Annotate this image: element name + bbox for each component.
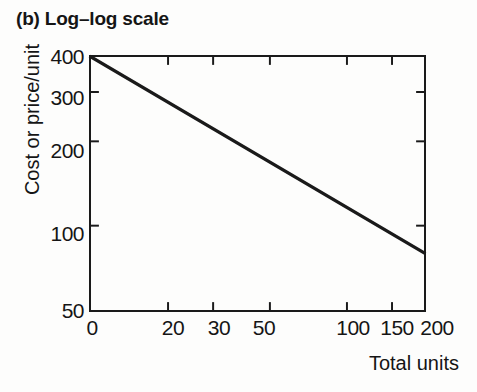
plot-canvas xyxy=(91,57,424,310)
series-line-0 xyxy=(91,57,424,253)
y-tick-label-400: 400 xyxy=(50,45,84,69)
y-tick-label-300: 300 xyxy=(50,86,84,110)
x-tick-label-20: 20 xyxy=(162,316,184,340)
x-tick-label-0: 0 xyxy=(86,316,97,340)
data-series xyxy=(91,57,424,253)
chart-figure: (b) Log–log scale 400 300 200 100 50 0 2… xyxy=(0,0,477,392)
x-tick-label-30: 30 xyxy=(208,316,230,340)
x-tick-label-200: 200 xyxy=(420,316,454,340)
y-axis-label: Cost or price/unit xyxy=(21,20,44,220)
x-tick-label-100: 100 xyxy=(336,316,370,340)
x-tick-label-150: 150 xyxy=(380,316,414,340)
x-axis-label: Total units xyxy=(369,352,459,375)
y-tick-label-100: 100 xyxy=(50,222,84,246)
y-tick-label-200: 200 xyxy=(50,139,84,163)
y-tick-label-50: 50 xyxy=(62,299,84,323)
x-tick-label-50: 50 xyxy=(253,316,275,340)
axis-ticks xyxy=(91,57,424,310)
plot-area xyxy=(89,55,426,312)
